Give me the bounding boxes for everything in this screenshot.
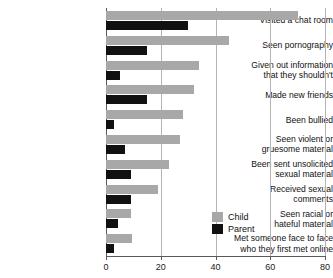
bar-parent bbox=[106, 46, 147, 55]
bar-parent bbox=[106, 71, 120, 80]
x-tick-mark-60 bbox=[270, 256, 271, 260]
bar-group bbox=[106, 36, 325, 55]
x-tick-label-40: 40 bbox=[210, 262, 220, 273]
x-tick-mark-20 bbox=[161, 256, 162, 260]
bar-child bbox=[106, 209, 131, 218]
x-tick-mark-80 bbox=[325, 256, 326, 260]
bar-child bbox=[106, 234, 132, 243]
bar-group bbox=[106, 85, 325, 104]
x-tick-label-80: 80 bbox=[320, 262, 330, 273]
bar-group bbox=[106, 160, 325, 179]
bar-parent bbox=[106, 170, 131, 179]
chart-legend: Child Parent bbox=[212, 211, 255, 235]
bar-child bbox=[106, 135, 180, 144]
legend-swatch-child-icon bbox=[212, 212, 223, 222]
legend-swatch-parent-icon bbox=[212, 224, 223, 234]
gridline-80 bbox=[325, 8, 326, 256]
x-tick-label-20: 20 bbox=[156, 262, 166, 273]
bar-parent bbox=[106, 244, 114, 253]
bar-group bbox=[106, 61, 325, 80]
bar-child bbox=[106, 11, 298, 20]
x-tick-label-60: 60 bbox=[265, 262, 275, 273]
bar-parent bbox=[106, 219, 118, 228]
bar-group bbox=[106, 135, 325, 154]
bar-child bbox=[106, 85, 194, 94]
bar-parent bbox=[106, 195, 131, 204]
bar-child bbox=[106, 61, 199, 70]
legend-label-parent: Parent bbox=[228, 223, 255, 235]
bar-parent bbox=[106, 95, 147, 104]
horizontal-bar-chart: Visited a chat roomSeen pornographyGiven… bbox=[0, 0, 333, 278]
x-tick-mark-40 bbox=[216, 256, 217, 260]
legend-item-parent: Parent bbox=[212, 223, 255, 235]
legend-label-child: Child bbox=[228, 211, 249, 223]
bar-child bbox=[106, 185, 158, 194]
bar-parent bbox=[106, 145, 125, 154]
x-tick-mark-0 bbox=[106, 256, 107, 260]
bar-group bbox=[106, 110, 325, 129]
bar-child bbox=[106, 110, 183, 119]
bar-child bbox=[106, 160, 169, 169]
x-tick-label-0: 0 bbox=[103, 262, 108, 273]
bar-group bbox=[106, 234, 325, 253]
bar-parent bbox=[106, 21, 188, 30]
bar-group bbox=[106, 11, 325, 30]
bar-parent bbox=[106, 120, 114, 129]
bar-child bbox=[106, 36, 229, 45]
bar-group bbox=[106, 185, 325, 204]
legend-item-child: Child bbox=[212, 211, 255, 223]
